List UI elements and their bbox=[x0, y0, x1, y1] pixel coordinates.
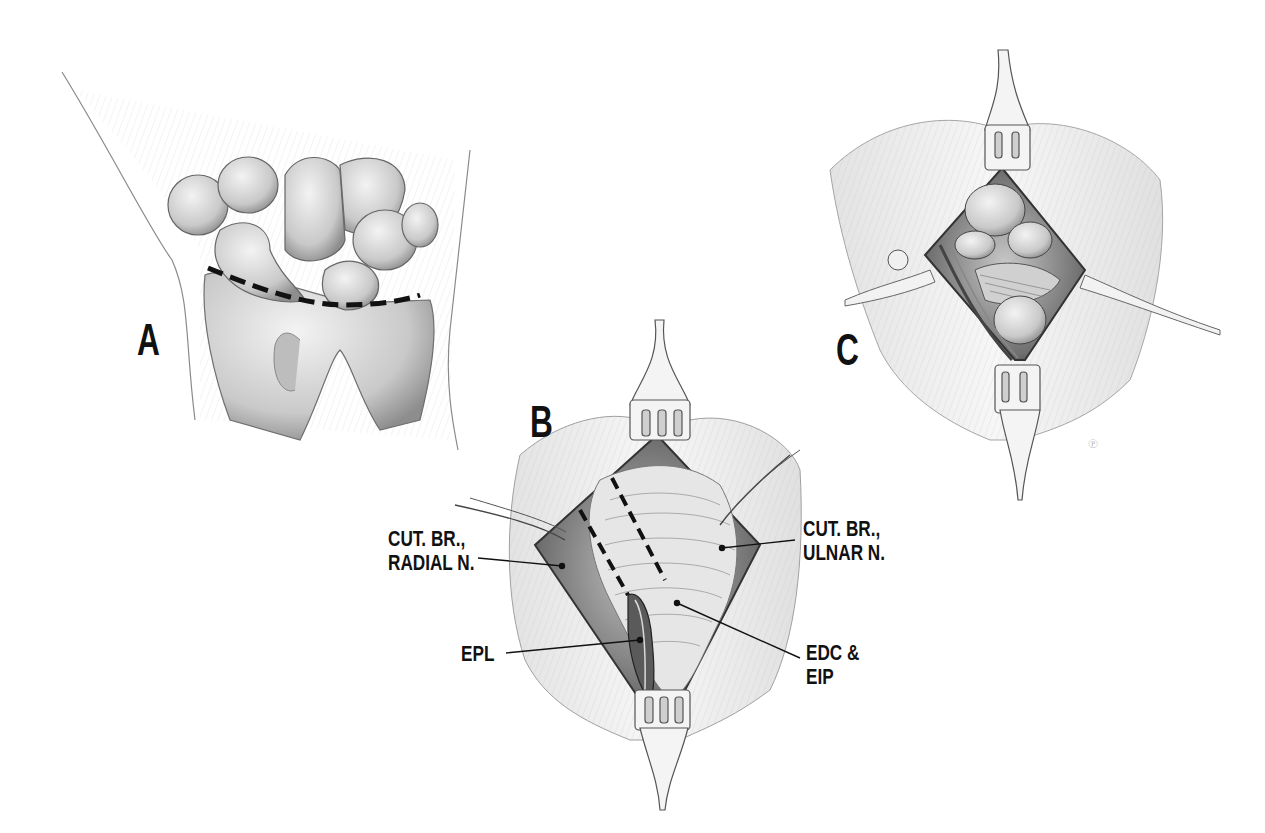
illustration-artwork: ℗ bbox=[0, 0, 1265, 833]
artist-signature: ℗ bbox=[1088, 436, 1098, 451]
panel-b-drawing bbox=[455, 320, 801, 810]
label-cut-br-radial-line1: CUT. BR., bbox=[388, 526, 465, 551]
label-edc-eip: EDC & EIP bbox=[806, 641, 859, 689]
label-cut-br-ulnar-line2: ULNAR N. bbox=[803, 540, 885, 565]
label-cut-br-radial-n: CUT. BR., RADIAL N. bbox=[388, 527, 474, 575]
label-cut-br-ulnar-n: CUT. BR., ULNAR N. bbox=[803, 517, 885, 565]
panel-letter-a: A bbox=[137, 318, 160, 362]
panel-c-drawing: ℗ bbox=[830, 50, 1220, 500]
panel-a-drawing bbox=[62, 72, 470, 450]
label-cut-br-radial-line2: RADIAL N. bbox=[388, 550, 474, 575]
label-cut-br-ulnar-line1: CUT. BR., bbox=[803, 516, 880, 541]
label-edc-line1: EDC & bbox=[806, 640, 859, 665]
panel-letter-b: B bbox=[530, 400, 553, 444]
label-epl: EPL bbox=[461, 642, 494, 666]
panel-letter-c: C bbox=[836, 328, 859, 372]
label-edc-line2: EIP bbox=[806, 664, 834, 689]
surgical-illustration-figure: ℗ A B C CUT. BR., RADIAL N. CUT. BR., UL… bbox=[0, 0, 1265, 833]
